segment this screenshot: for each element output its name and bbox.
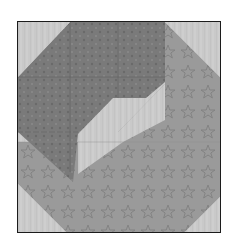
quilt-block — [17, 21, 221, 233]
quilt-block-artwork — [18, 22, 220, 232]
